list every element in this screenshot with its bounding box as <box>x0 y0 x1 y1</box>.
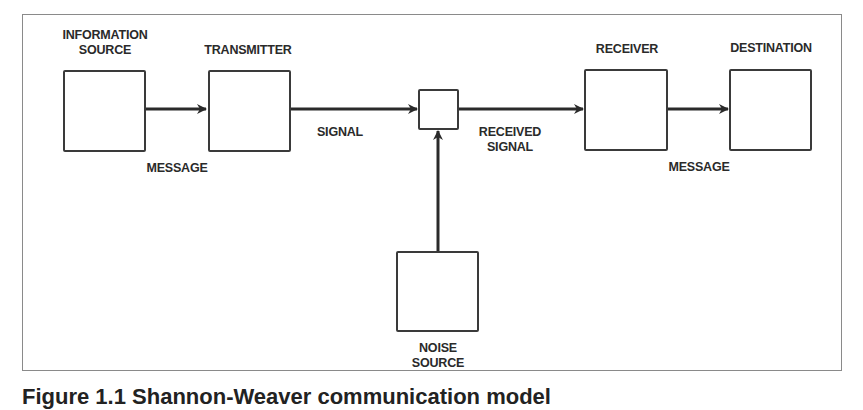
transmitter-box <box>208 70 291 152</box>
destination-box <box>729 69 812 151</box>
received-signal-label: RECEIVED SIGNAL <box>465 125 555 155</box>
noise-source-label: NOISE SOURCE <box>388 341 488 371</box>
information-source-label: INFORMATION SOURCE <box>50 28 160 58</box>
noise-source-box <box>396 251 479 332</box>
label-line: SIGNAL <box>465 140 555 155</box>
destination-label: DESTINATION <box>716 41 826 56</box>
information-source-box <box>63 70 146 152</box>
receiver-label: RECEIVER <box>572 42 682 57</box>
receiver-box <box>584 69 668 151</box>
channel-box <box>418 89 459 130</box>
label-line: SOURCE <box>388 356 488 371</box>
label-line: INFORMATION <box>50 28 160 43</box>
signal-label: SIGNAL <box>300 125 380 140</box>
label-line: SOURCE <box>50 43 160 58</box>
transmitter-label: TRANSMITTER <box>193 43 303 58</box>
figure-caption: Figure 1.1 Shannon-Weaver communication … <box>22 384 551 410</box>
message-left-label: MESSAGE <box>127 161 227 176</box>
label-line: RECEIVED <box>465 125 555 140</box>
message-right-label: MESSAGE <box>649 160 749 175</box>
label-line: NOISE <box>388 341 488 356</box>
